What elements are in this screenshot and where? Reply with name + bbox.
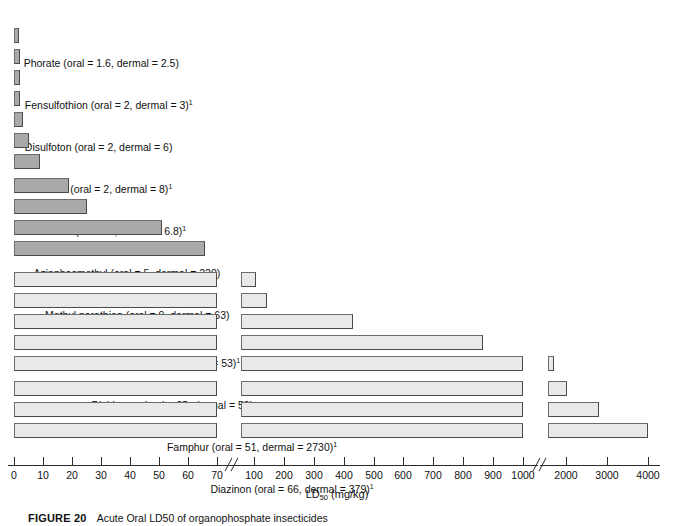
axis-title-main: LD — [306, 488, 320, 500]
bar-row: Phorate (oral = 1.6, dermal = 2.5) — [0, 28, 674, 43]
axis-tick-label: 300 — [305, 469, 323, 481]
axis-tick — [566, 457, 567, 465]
bar-segment — [241, 381, 523, 396]
axis-tick-label: 0 — [11, 469, 17, 481]
bar-segment — [241, 423, 523, 438]
bar-segment — [14, 112, 23, 127]
bar-segment — [14, 335, 217, 350]
bar-segment — [14, 70, 20, 85]
axis-title-subscript: 50 — [320, 493, 328, 502]
figure-number: FIGURE 20 — [28, 512, 87, 524]
bar-row: Tetrachlorvinphos (oral = 4000) — [0, 423, 674, 438]
axis-tick-label: 600 — [394, 469, 412, 481]
bar-segment — [14, 199, 87, 214]
axis-tick — [648, 457, 649, 465]
axis-tick-label: 4000 — [636, 469, 659, 481]
axis-tick-label: 1000 — [511, 469, 534, 481]
axis-tick — [72, 457, 73, 465]
bar-row: Famphur (oral = 51, dermal = 2730)1 — [0, 220, 674, 235]
axis-tick-label: 700 — [424, 469, 442, 481]
axis-tick-label: 20 — [66, 469, 78, 481]
axis-tick-label: 900 — [484, 469, 502, 481]
axis-tick — [523, 457, 524, 465]
x-axis: 0102030405060701002003004005006007008009… — [0, 455, 674, 485]
bar-segment — [14, 178, 69, 193]
bar-segment — [548, 381, 567, 396]
bar-row: Trichlorfon (oral = 144, dermal >2000) — [0, 293, 674, 308]
bar-segment — [14, 402, 217, 417]
bar-row: Solprophos (oral = 107, dermal = 820) — [0, 272, 674, 287]
axis-break-mark — [225, 458, 239, 472]
axis-tick-label: 70 — [211, 469, 223, 481]
bar-row: Naled (oral = 430, dermal = 1100) — [0, 314, 674, 329]
bar-row: Dioxathion (oral = 19, dermal = 53)1 — [0, 178, 674, 193]
axis-tick — [607, 457, 608, 465]
bar-segment — [548, 423, 648, 438]
bar-segment — [14, 356, 217, 371]
axis-tick — [188, 457, 189, 465]
figure-caption: FIGURE 20Acute Oral LD50 of organophosph… — [28, 512, 328, 524]
bar-segment — [548, 356, 554, 371]
axis-tick — [217, 457, 218, 465]
axis-tick-label: 2000 — [554, 469, 577, 481]
bar-segment — [241, 293, 267, 308]
axis-tick-label: 60 — [182, 469, 194, 481]
axis-tick-label: 40 — [124, 469, 136, 481]
bar-row: Azinphosmethyl (oral = 5, dermal = 220) — [0, 133, 674, 148]
figure-caption-text: Acute Oral LD50 of organophosphate insec… — [97, 512, 328, 524]
axis-tick — [101, 457, 102, 465]
bar-row: Dichlorvos (oral = 25, dermal = 59) — [0, 199, 674, 214]
bar-row: Temephos (oral = 2030, dermal = 970) — [0, 381, 674, 396]
bar-segment — [14, 272, 217, 287]
axis-line — [540, 465, 660, 466]
bar-label: Famphur (oral = 51, dermal = 2730)1 — [167, 440, 337, 455]
bar-segment — [14, 314, 217, 329]
axis-tick — [403, 457, 404, 465]
bar-segment — [14, 49, 20, 64]
bar-row: Fensulfothion (oral = 2, dermal = 3)1 — [0, 49, 674, 64]
axis-tick — [130, 457, 131, 465]
bar-segment — [548, 402, 599, 417]
axis-line — [232, 465, 538, 466]
bar-row: Parathion (oral = 3, dermal = 6.8)1 — [0, 112, 674, 127]
axis-tick — [284, 457, 285, 465]
bar-segment — [241, 335, 483, 350]
bar-row: Demeton (oral = 2, dermal = 8)1 — [0, 91, 674, 106]
axis-tick-label: 200 — [275, 469, 293, 481]
axis-tick — [493, 457, 494, 465]
axis-tick-label: 50 — [153, 469, 165, 481]
x-axis-title: LD50 (mg/kg) — [0, 488, 674, 500]
axis-tick-label: 400 — [335, 469, 353, 481]
axis-tick-label: 800 — [454, 469, 472, 481]
bar-segment — [14, 293, 217, 308]
axis-tick — [463, 457, 464, 465]
bar-segment — [14, 241, 205, 256]
bar-segment — [14, 423, 217, 438]
axis-tick — [254, 457, 255, 465]
bar-segment — [14, 91, 20, 106]
axis-tick — [43, 457, 44, 465]
axis-tick — [344, 457, 345, 465]
bar-row: Malathion (oral = 2800, dermal = 4100) — [0, 402, 674, 417]
bar-segment — [241, 272, 256, 287]
bar-segment — [14, 133, 29, 148]
axis-tick — [314, 457, 315, 465]
axis-tick-label: 500 — [365, 469, 383, 481]
axis-tick — [159, 457, 160, 465]
axis-tick-label: 100 — [245, 469, 263, 481]
axis-tick — [374, 457, 375, 465]
bar-segment — [241, 356, 523, 371]
axis-tick-label: 10 — [37, 469, 49, 481]
axis-tick-label: 3000 — [595, 469, 618, 481]
bar-row: Diazinon (oral = 66, dermal = 379)1 — [0, 241, 674, 256]
axis-tick — [433, 457, 434, 465]
axis-title-units: (mg/kg) — [328, 488, 368, 500]
chart-canvas: Phorate (oral = 1.6, dermal = 2.5)Fensul… — [0, 0, 674, 526]
bar-segment — [14, 28, 19, 43]
axis-tick-label: 30 — [95, 469, 107, 481]
bar-row: Methyl parathion (oral = 9, dermal = 63) — [0, 154, 674, 169]
bar-row: Disulfoton (oral = 2, dermal = 6) — [0, 70, 674, 85]
bar-segment — [14, 381, 217, 396]
bar-segment — [241, 402, 523, 417]
axis-break-mark — [533, 458, 547, 472]
